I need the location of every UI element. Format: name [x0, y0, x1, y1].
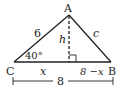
- vertex-a-label: A: [63, 2, 73, 15]
- angle-c-label: 40°: [25, 50, 43, 61]
- segment-8-minus-x-label: 8 −x: [80, 66, 104, 77]
- segment-x-label: x: [40, 65, 47, 78]
- triangle-diagram: A C B 6 c h 40° x 8 −x 8: [0, 0, 122, 93]
- altitude-label: h: [59, 33, 66, 46]
- vertex-c-label: C: [6, 65, 14, 78]
- side-ab-label: c: [93, 27, 99, 40]
- right-angle-marker: [69, 55, 76, 62]
- dimension-label: 8: [57, 75, 64, 88]
- side-ca-label: 6: [34, 27, 41, 40]
- vertex-b-label: B: [108, 65, 116, 78]
